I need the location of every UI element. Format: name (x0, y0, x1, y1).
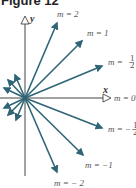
label-mhalf: m = 1 2 (108, 53, 135, 70)
x-axis-label: x (102, 84, 108, 95)
ray-left-m1 (8, 80, 25, 98)
x-axis (0, 94, 111, 102)
svg-text:2: 2 (133, 127, 136, 137)
label-m0: m = 0 (114, 93, 136, 103)
y-axis-arrow-icon (21, 16, 29, 24)
label-mneg2: m = − 2 (54, 178, 84, 188)
ray-left-mneg1 (8, 98, 25, 115)
x-axis-arrow-icon (103, 94, 111, 102)
svg-text:m = −: m = − (108, 124, 131, 134)
label-mneg1: m = −1 (85, 160, 113, 170)
label-m1: m = 1 (87, 28, 109, 38)
label-mneghalf: m = − 1 2 (108, 120, 136, 137)
ray-m1 (25, 41, 82, 98)
label-m2: m = 2 (57, 9, 79, 19)
svg-text:2: 2 (130, 60, 135, 70)
svg-text:m =: m = (108, 57, 123, 67)
y-axis-label: y (29, 13, 35, 24)
ray-mneg1 (25, 98, 83, 155)
slope-diagram: y x m = 2 m = 1 m = 1 2 m = 0 m = − 1 2 … (0, 0, 136, 188)
